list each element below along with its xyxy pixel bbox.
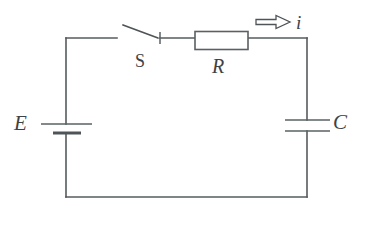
- circuit-diagram: E S R C i: [0, 0, 370, 231]
- resistor-box-icon: [195, 32, 248, 50]
- label-source-E: E: [14, 113, 27, 134]
- label-capacitor-C: C: [333, 112, 347, 133]
- arrow-right-hollow-icon: [256, 16, 290, 29]
- label-resistor-R: R: [212, 56, 224, 76]
- label-switch-S: S: [135, 52, 145, 70]
- switch-open-icon[interactable]: [123, 25, 158, 38]
- label-current-i: i: [296, 13, 301, 32]
- circuit-schematic-canvas: [0, 0, 370, 231]
